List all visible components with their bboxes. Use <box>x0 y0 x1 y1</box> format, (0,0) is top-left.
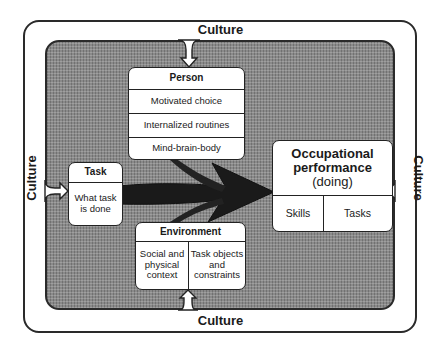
person-item-mind-brain-body: Mind-brain-body <box>129 137 244 159</box>
environment-box: Environment Social and physical context … <box>135 222 246 290</box>
environment-item-task-objects-constraints: Task objects and constraints <box>189 241 245 289</box>
culture-left-notch-arrow-icon <box>45 180 68 202</box>
occupational-title-line2: performance <box>293 161 372 175</box>
occupational-title-line1: Occupational <box>291 147 373 161</box>
task-box: Task What task is done <box>68 162 123 226</box>
task-header: Task <box>69 163 122 182</box>
person-item-internalized-routines: Internalized routines <box>129 113 244 137</box>
task-body: What task is done <box>72 182 119 225</box>
culture-bottom-notch-arrow-icon <box>178 290 198 310</box>
environment-item-social-physical-context: Social and physical context <box>138 241 186 289</box>
occupational-performance-title: Occupational performance (doing) <box>273 141 392 195</box>
culture-top-notch-arrow-icon <box>178 40 200 67</box>
person-item-motivated-choice: Motivated choice <box>129 89 244 113</box>
occupational-item-tasks: Tasks <box>323 195 392 231</box>
person-header: Person <box>129 68 244 89</box>
occupational-performance-box: Occupational performance (doing) Skills … <box>272 140 393 232</box>
occupational-subtitle: (doing) <box>312 175 352 189</box>
occupational-item-skills: Skills <box>273 195 323 231</box>
person-box: Person Motivated choice Internalized rou… <box>128 67 245 160</box>
environment-header: Environment <box>136 223 245 241</box>
